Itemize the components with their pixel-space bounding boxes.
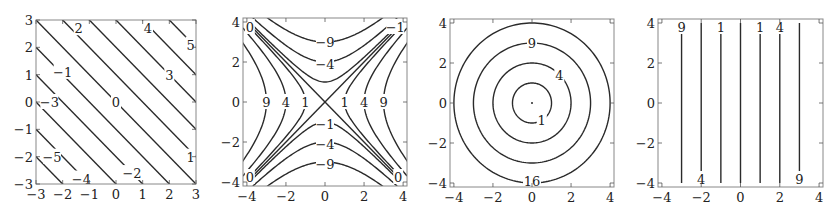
contour-label: 5 — [187, 38, 195, 53]
x-tick-label: 4 — [815, 190, 823, 205]
contour-lines — [682, 23, 800, 183]
y-tick-label: 0 — [439, 96, 447, 111]
contour-label: 9 — [379, 95, 387, 110]
x-tick-label: −4 — [237, 189, 256, 204]
contour-plot-circles: 94116−4−2024−4−2024 — [428, 16, 614, 205]
y-tick-label: −4 — [221, 175, 240, 190]
contour-label: 1 — [340, 95, 348, 110]
y-tick-label: 4 — [439, 16, 447, 31]
contour-label: 4 — [282, 95, 290, 110]
contour-label: 1 — [756, 20, 764, 35]
y-tick-label: −2 — [221, 135, 240, 150]
center-point — [531, 102, 533, 104]
y-tick-label: 2 — [647, 56, 655, 71]
y-tick-label: 2 — [25, 40, 33, 55]
x-tick-label: 0 — [736, 190, 744, 205]
contour-plot-x-plus-y: 2453−1−301−5−4−2−3−2−10123−3−2−10123 — [9, 0, 222, 218]
contour-label: 9 — [677, 20, 685, 35]
contour-plot-vertical-lines: 911449−4−2024−4−2024 — [636, 16, 823, 205]
contour-label: −3 — [40, 95, 59, 110]
x-tick-label: −4 — [444, 190, 463, 205]
x-tick-label: −2 — [53, 187, 72, 202]
contour-label: 3 — [165, 68, 173, 83]
y-tick-label: 2 — [232, 55, 240, 70]
x-tick-label: 2 — [776, 190, 784, 205]
contour-label: 9 — [795, 172, 803, 187]
y-tick-label: −2 — [14, 150, 33, 165]
x-tick-label: −2 — [692, 190, 711, 205]
y-tick-label: −2 — [428, 136, 447, 151]
contour-label: −4 — [315, 57, 334, 72]
y-tick-label: 1 — [25, 68, 33, 83]
y-tick-label: −4 — [428, 176, 447, 191]
y-tick-label: 2 — [439, 56, 447, 71]
contour-label: −1 — [315, 117, 334, 132]
contour-label: 4 — [360, 95, 368, 110]
x-tick-label: 4 — [399, 189, 407, 204]
contour-label: 1 — [538, 113, 546, 128]
contour-label: 2 — [75, 21, 83, 36]
contour-label: 9 — [528, 36, 536, 51]
y-tick-label: 0 — [647, 96, 655, 111]
x-tick-label: 0 — [321, 189, 329, 204]
contour-label: 1 — [187, 150, 195, 165]
contour-figure: 2453−1−301−5−4−2−3−2−10123−3−2−10123 0−1… — [0, 0, 830, 218]
contour-label: −1 — [386, 20, 405, 35]
contour-label: 4 — [555, 68, 563, 83]
x-tick-label: 3 — [192, 187, 200, 202]
contour-label: −5 — [42, 150, 61, 165]
x-tick-label: −2 — [276, 189, 295, 204]
x-tick-label: 4 — [606, 190, 614, 205]
contour-label: −9 — [315, 157, 334, 172]
contour-plot-saddle: 0−1−9−4941149−1−4−900−4−2024−4−2024 — [221, 7, 418, 204]
x-tick-label: −4 — [652, 190, 671, 205]
y-tick-label: −2 — [636, 136, 655, 151]
contour-label: 9 — [262, 95, 270, 110]
x-tick-label: 2 — [567, 190, 575, 205]
y-tick-label: −3 — [14, 177, 33, 192]
y-tick-label: 0 — [232, 95, 240, 110]
y-tick-label: 4 — [647, 16, 655, 31]
y-tick-label: 0 — [25, 95, 33, 110]
x-tick-label: −1 — [80, 187, 99, 202]
contour-label: −4 — [315, 137, 334, 152]
x-tick-label: 2 — [360, 189, 368, 204]
x-tick-label: 0 — [112, 187, 120, 202]
y-tick-label: 3 — [25, 13, 33, 28]
contour-label: 4 — [144, 21, 152, 36]
contour-label: −9 — [315, 35, 334, 50]
x-tick-label: 0 — [528, 190, 536, 205]
contour-label: 0 — [112, 95, 120, 110]
x-tick-label: −2 — [483, 190, 502, 205]
contour-label: 1 — [301, 95, 309, 110]
contour-line — [9, 129, 222, 218]
x-tick-label: 1 — [139, 187, 147, 202]
y-tick-label: −4 — [636, 176, 655, 191]
contour-label: 1 — [717, 20, 725, 35]
contour-label: 0 — [394, 170, 402, 185]
y-tick-label: −1 — [14, 122, 33, 137]
x-tick-label: 2 — [165, 187, 173, 202]
contour-label: −1 — [53, 65, 72, 80]
y-tick-label: 4 — [232, 15, 240, 30]
contour-label: −2 — [122, 166, 141, 181]
